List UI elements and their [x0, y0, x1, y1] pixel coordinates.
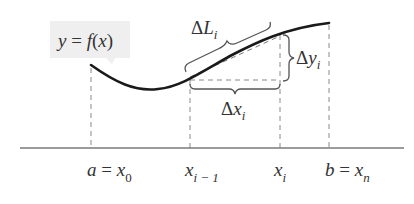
arc-length-diagram: y = f(x) ΔLi [0, 0, 414, 204]
function-label: y = f(x) [56, 30, 113, 52]
arc-length-label: ΔLi [191, 17, 218, 42]
axis-label-a: a = x0 [87, 159, 132, 185]
axis-labels: a = x0 xi − 1 xi b = xn [87, 159, 370, 185]
delta-x-label: Δxi [221, 98, 246, 123]
delta-x-brace [190, 84, 280, 94]
axis-label-x-i-minus-1: xi − 1 [184, 159, 219, 185]
function-label-callout: y = f(x) [50, 21, 130, 64]
axis-label-x-i: xi [273, 159, 286, 185]
delta-y-label: Δyi [296, 47, 321, 72]
axis-label-b: b = xn [325, 159, 370, 185]
delta-y-brace [283, 35, 294, 81]
